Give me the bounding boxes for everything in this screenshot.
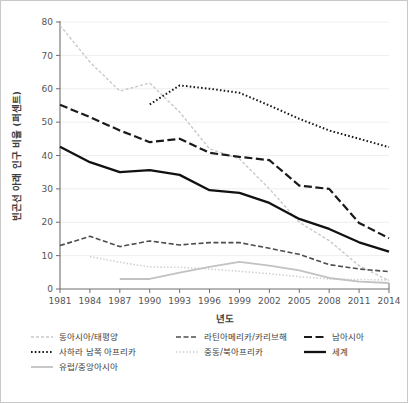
y-tick-label: 10 xyxy=(42,251,54,261)
series-line xyxy=(60,105,389,239)
data-series xyxy=(60,25,389,283)
legend-item[interactable]: 유럽/중앙아시아 xyxy=(31,362,118,372)
legend-item[interactable]: 남아시아 xyxy=(304,332,364,342)
y-tick-label: 60 xyxy=(42,84,54,94)
x-tick-label: 2008 xyxy=(318,296,341,306)
y-tick-label: 70 xyxy=(42,51,54,61)
x-tick-label: 1984 xyxy=(78,296,101,306)
legend-item[interactable]: 라틴아메리카/카리브해 xyxy=(176,332,287,342)
legend-label: 중동/북아프리카 xyxy=(204,347,263,357)
legend-label: 세계 xyxy=(332,347,348,357)
grid-lines xyxy=(60,22,389,256)
y-tick-label: 80 xyxy=(42,17,54,27)
y-tick-label: 50 xyxy=(42,117,54,127)
x-tick-label: 1990 xyxy=(138,296,161,306)
x-axis-title: 년도 xyxy=(216,313,234,324)
x-tick-label: 1999 xyxy=(228,296,251,306)
line-chart: 01020304050607080 1981198419871990199319… xyxy=(1,1,407,402)
legend-label: 사하라 남쪽 아프리카 xyxy=(59,347,136,357)
y-tick-label: 40 xyxy=(42,151,54,161)
legend-label: 유럽/중앙아시아 xyxy=(59,362,118,372)
series-line xyxy=(120,262,389,283)
x-tick-label: 1981 xyxy=(49,296,72,306)
y-tick-label: 30 xyxy=(42,184,54,194)
legend-label: 라틴아메리카/카리브해 xyxy=(204,332,287,342)
x-tick-label: 1987 xyxy=(108,296,131,306)
series-line xyxy=(90,257,389,280)
x-tick-label: 2005 xyxy=(288,296,311,306)
x-axis-tick-labels: 1981198419871990199319961999200220052008… xyxy=(49,296,401,306)
legend-label: 동아시아/태평양 xyxy=(59,332,118,342)
series-line xyxy=(60,236,389,271)
x-tick-label: 2014 xyxy=(378,296,401,306)
legend-item[interactable]: 세계 xyxy=(304,347,348,357)
legend-item[interactable]: 사하라 남쪽 아프리카 xyxy=(31,347,136,357)
x-tick-label: 1996 xyxy=(198,296,221,306)
legend: 동아시아/태평양라틴아메리카/카리브해남아시아사하라 남쪽 아프리카중동/북아프… xyxy=(31,332,364,372)
y-tick-label: 20 xyxy=(42,217,54,227)
y-axis-title: 빈곤선 아래 인구 비율 (퍼센트) xyxy=(11,91,22,221)
x-tick-label: 2011 xyxy=(348,296,371,306)
legend-item[interactable]: 동아시아/태평양 xyxy=(31,332,118,342)
legend-label: 남아시아 xyxy=(332,332,364,342)
x-tick-label: 1993 xyxy=(168,296,191,306)
y-axis-tick-labels: 01020304050607080 xyxy=(42,17,54,294)
tick-marks xyxy=(56,22,389,293)
x-tick-label: 2002 xyxy=(258,296,281,306)
chart-container: 01020304050607080 1981198419871990199319… xyxy=(0,0,408,403)
legend-item[interactable]: 중동/북아프리카 xyxy=(176,347,263,357)
y-tick-label: 0 xyxy=(47,284,53,294)
series-line xyxy=(150,85,389,147)
